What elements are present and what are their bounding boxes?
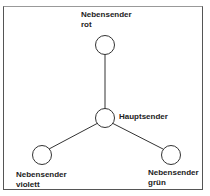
label-gruen: Nebensender grün: [148, 168, 199, 188]
node-rot-circle: [96, 36, 115, 55]
node-hauptsender-circle: [96, 109, 115, 128]
label-rot-line2: rot: [81, 20, 132, 30]
edge-hauptsender-violett: [49, 123, 98, 149]
label-violett-line1: Nebensender: [16, 170, 67, 180]
label-rot-line1: Nebensender: [81, 10, 132, 20]
label-violett: Nebensender violett: [16, 170, 67, 190]
edge-hauptsender-gruen: [112, 123, 163, 149]
label-violett-line2: violett: [16, 180, 67, 190]
node-gruen-circle: [162, 146, 181, 165]
label-hauptsender-text: Hauptsender: [119, 112, 168, 122]
node-violett-circle: [33, 146, 52, 165]
label-gruen-line2: grün: [148, 178, 199, 188]
label-hauptsender: Hauptsender: [119, 112, 168, 122]
label-gruen-line1: Nebensender: [148, 168, 199, 178]
label-rot: Nebensender rot: [81, 10, 132, 30]
